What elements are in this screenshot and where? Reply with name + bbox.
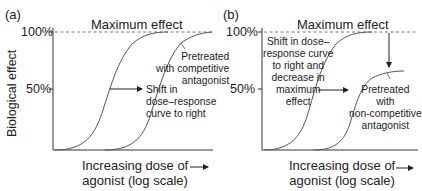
panel-a-curve-label: Pretreated with competitive antagonist [156,51,229,87]
panel-b-curve-pointer [387,73,390,79]
panel-b-tick-100: 100% [226,26,258,39]
panel-a-max-title: Maximum effect [91,18,183,31]
panel-b-shift-label: Shift in dose– response curve to right a… [263,36,333,108]
panel-a-curve-pointer [181,43,185,49]
y-axis-title: Biological effect [6,50,19,137]
panel-b-max-title: Maximum effect [297,18,389,31]
panel-b-tick-50: 50% [230,83,255,96]
panel-a-letter: (a) [5,8,21,21]
panel-a-x-title: Increasing dose of agonist (log scale) [82,158,188,188]
panel-a-shift-label: Shift in dose–response curve to right [146,84,216,120]
panel-b-x-title: Increasing dose of agonist (log scale) [289,158,395,188]
panel-a-tick-100: 100% [21,26,53,39]
panel-b-letter: (b) [223,8,239,21]
panel-b-curve-label: Pretreated with non-competitive antagoni… [349,84,422,132]
panel-a-tick-50: 50% [26,83,51,96]
